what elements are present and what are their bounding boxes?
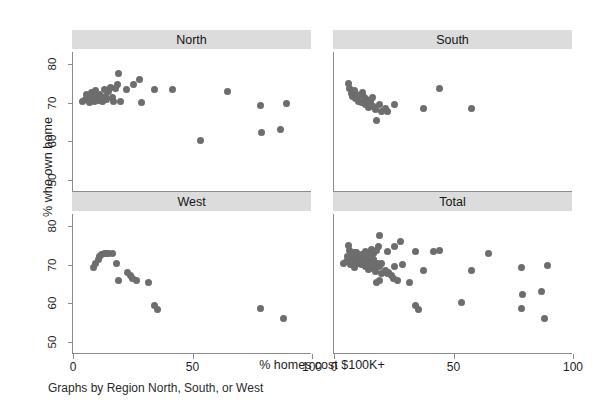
x-tick — [334, 354, 335, 359]
data-point — [283, 100, 290, 107]
data-point — [277, 126, 284, 133]
panel-title-west: West — [72, 192, 311, 211]
panel-title-north: North — [72, 30, 311, 49]
y-tick-label: 50 — [46, 329, 58, 355]
panel-total: Total050100 — [333, 192, 572, 354]
data-point — [376, 232, 383, 239]
data-point — [420, 105, 427, 112]
data-point — [420, 267, 427, 274]
y-tick-label: 80 — [46, 213, 58, 239]
data-point — [197, 137, 204, 144]
data-point — [280, 315, 287, 322]
y-tick — [68, 303, 73, 304]
data-point — [518, 264, 525, 271]
data-point — [384, 108, 391, 115]
panel-north: North50607080 — [72, 30, 311, 192]
data-point — [391, 263, 398, 270]
data-point — [406, 279, 413, 286]
data-point — [169, 86, 176, 93]
data-point — [458, 299, 465, 306]
x-tick — [73, 354, 74, 359]
panel-south: South — [333, 30, 572, 192]
data-point — [258, 129, 265, 136]
x-tick-label: 50 — [439, 360, 469, 374]
plot-area-west — [73, 214, 311, 353]
data-point — [138, 99, 145, 106]
data-point — [123, 86, 130, 93]
plot-area-total — [334, 214, 572, 353]
figure-note: Graphs by Region North, South, or West — [48, 381, 263, 395]
data-point — [257, 305, 264, 312]
plot-area-north — [73, 52, 311, 191]
data-point — [369, 94, 376, 101]
data-point — [412, 248, 419, 255]
data-point — [133, 277, 140, 284]
y-tick-label: 60 — [46, 290, 58, 316]
plot-area-south — [334, 52, 572, 191]
data-point — [399, 261, 406, 268]
x-tick — [312, 354, 313, 359]
data-point — [468, 105, 475, 112]
data-point — [376, 277, 383, 284]
scatter-matrix-figure: % who own home % homes cost $100K+ Graph… — [0, 0, 599, 410]
plot-box-west: 50607080050100 — [72, 214, 311, 354]
data-point — [257, 102, 264, 109]
data-point — [224, 88, 231, 95]
x-tick — [573, 354, 574, 359]
x-tick-label: 50 — [178, 360, 208, 374]
x-tick-label: 0 — [319, 360, 349, 374]
y-tick-label: 50 — [46, 167, 58, 193]
data-point — [136, 76, 143, 83]
y-tick — [68, 64, 73, 65]
data-point — [384, 248, 391, 255]
panel-title-south: South — [333, 30, 572, 49]
y-tick-label: 80 — [46, 51, 58, 77]
data-point — [436, 247, 443, 254]
panel-west: West50607080050100 — [72, 192, 311, 354]
x-tick — [454, 354, 455, 359]
data-point — [109, 250, 116, 257]
data-point — [485, 250, 492, 257]
data-point — [110, 98, 117, 105]
data-point — [538, 288, 545, 295]
data-point — [154, 306, 161, 313]
data-point — [145, 279, 152, 286]
y-tick-label: 60 — [46, 128, 58, 154]
data-point — [113, 260, 120, 267]
y-tick — [68, 342, 73, 343]
plot-box-north: 50607080 — [72, 52, 311, 192]
data-point — [117, 98, 124, 105]
data-point — [373, 117, 380, 124]
data-point — [115, 70, 122, 77]
data-point — [468, 267, 475, 274]
y-tick — [68, 141, 73, 142]
x-tick — [193, 354, 194, 359]
data-point — [378, 260, 385, 267]
panel-title-total: Total — [333, 192, 572, 211]
x-axis-west: 050100 — [73, 354, 311, 355]
data-point — [115, 277, 122, 284]
y-tick — [68, 103, 73, 104]
y-tick — [68, 180, 73, 181]
y-tick — [68, 265, 73, 266]
data-point — [397, 238, 404, 245]
data-point — [151, 86, 158, 93]
plot-box-south — [333, 52, 572, 192]
y-tick — [68, 226, 73, 227]
data-point — [375, 243, 382, 250]
y-tick-label: 70 — [46, 90, 58, 116]
data-point — [541, 315, 548, 322]
plot-box-total: 050100 — [333, 214, 572, 354]
data-point — [394, 277, 401, 284]
x-axis-total: 050100 — [334, 354, 572, 355]
data-point — [436, 85, 443, 92]
data-point — [519, 291, 526, 298]
data-point — [415, 306, 422, 313]
data-point — [544, 262, 551, 269]
data-point — [114, 81, 121, 88]
data-point — [391, 101, 398, 108]
data-point — [518, 305, 525, 312]
y-tick-label: 70 — [46, 252, 58, 278]
x-tick-label: 100 — [558, 360, 588, 374]
x-tick-label: 0 — [58, 360, 88, 374]
